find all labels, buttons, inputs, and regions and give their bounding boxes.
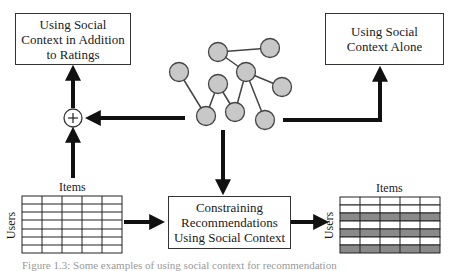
matrix-left-col-label: Items [59,180,86,195]
social-network-nodes [170,39,292,130]
user-item-matrix-left [22,196,122,253]
figure-caption: Figure 1.3: Some examples of using socia… [22,259,337,271]
matrix-right-row-label: Users [322,211,337,241]
matrix-left-row-label: Users [4,211,19,241]
plus-combiner-icon [64,109,82,127]
matrix-right-col-label: Items [376,181,403,196]
arrow-network-to-social-alone [283,73,380,120]
user-item-matrix-right [340,197,440,253]
